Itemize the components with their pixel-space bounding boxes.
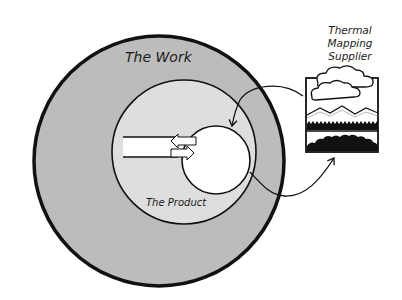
supplier-label-line-1: Thermal xyxy=(300,24,400,37)
product-label: The Product xyxy=(146,197,207,208)
supplier-label-line-3: Supplier xyxy=(300,50,400,63)
supplier-label-line-2: Mapping xyxy=(300,37,400,50)
supplier-label: Thermal Mapping Supplier xyxy=(300,24,400,63)
core-circle xyxy=(182,126,250,194)
work-label: The Work xyxy=(125,49,193,65)
thermal-map-landscape-icon xyxy=(306,66,378,152)
